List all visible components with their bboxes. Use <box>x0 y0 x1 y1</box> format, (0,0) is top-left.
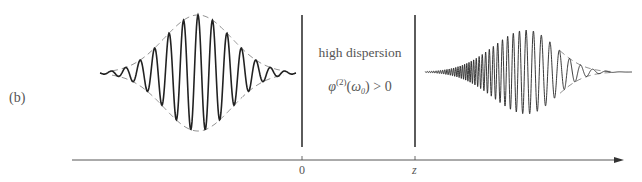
order-superscript: (2) <box>336 77 347 87</box>
axis-arrow-icon <box>614 157 624 163</box>
tick-label-0: 0 <box>299 163 305 178</box>
relation: > 0 <box>370 79 392 94</box>
omega-symbol: ω <box>351 79 361 94</box>
input-pulse <box>100 15 296 131</box>
phi-symbol: φ <box>328 79 336 94</box>
dispersion-condition: φ(2)(ω0) > 0 <box>312 77 408 96</box>
panel-label: (b) <box>9 90 25 106</box>
medium-title: high dispersion <box>312 45 408 61</box>
tick-label-z: z <box>412 163 417 178</box>
output-pulse <box>425 30 632 114</box>
